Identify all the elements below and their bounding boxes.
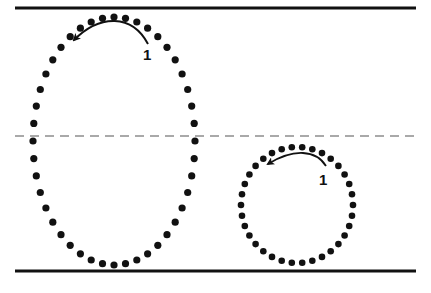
loop-dot	[77, 250, 84, 257]
loop-dot	[30, 155, 37, 162]
loop-dot	[179, 204, 186, 211]
loop-dot	[327, 248, 334, 255]
large-loop-dots	[29, 13, 198, 268]
loop-dot	[289, 260, 296, 267]
loop-dot	[350, 202, 357, 209]
loop-dot	[37, 189, 44, 196]
loop-dot	[327, 155, 334, 162]
loop-dot	[33, 172, 40, 179]
loop-dot	[163, 231, 170, 238]
loop-dot	[188, 172, 195, 179]
loop-dot	[133, 256, 140, 263]
loop-dot	[289, 144, 296, 151]
loop-dot	[144, 25, 151, 32]
loop-dot	[57, 44, 64, 51]
loop-dot	[99, 260, 106, 267]
large-loop-label: 1	[143, 47, 151, 62]
loop-dot	[67, 33, 74, 40]
loop-dot	[49, 56, 56, 63]
loop-dot	[269, 254, 276, 261]
loop-dot	[278, 146, 285, 153]
loop-dot	[144, 250, 151, 257]
loop-dot	[154, 242, 161, 249]
loop-dot	[110, 261, 117, 268]
loop-dot	[30, 120, 37, 127]
loop-dot	[179, 70, 186, 77]
loop-dot	[335, 241, 342, 248]
loop-dot	[319, 254, 326, 261]
loop-dot	[188, 103, 195, 110]
loop-dot	[172, 56, 179, 63]
loop-dot	[309, 146, 316, 153]
loop-dot	[341, 171, 348, 178]
loop-dot	[33, 103, 40, 110]
loop-dot	[346, 223, 353, 230]
loop-dot	[110, 13, 117, 20]
loop-dot	[239, 191, 246, 198]
loop-dot	[252, 241, 259, 248]
loop-dot	[238, 202, 245, 209]
loop-dot	[260, 248, 267, 255]
loop-dot	[42, 70, 49, 77]
loop-dot	[319, 150, 326, 157]
loop-dot	[242, 181, 249, 188]
loop-dot	[299, 144, 306, 151]
loop-dot	[122, 15, 129, 22]
loop-dot	[49, 219, 56, 226]
loop-dot	[37, 86, 44, 93]
loop-dot	[191, 120, 198, 127]
loop-dot	[67, 242, 74, 249]
loop-dot	[42, 204, 49, 211]
small-loop-arrow-icon	[268, 153, 326, 166]
loop-dot	[154, 33, 161, 40]
loop-dot	[260, 155, 267, 162]
loop-dot	[191, 137, 198, 144]
small-loop-dots	[238, 144, 357, 266]
loop-dot	[184, 189, 191, 196]
loop-dot	[77, 25, 84, 32]
loop-dot	[269, 150, 276, 157]
loop-dot	[341, 232, 348, 239]
loop-dot	[309, 258, 316, 265]
loop-dot	[278, 258, 285, 265]
loop-dot	[133, 18, 140, 25]
loop-dot	[172, 219, 179, 226]
loop-dot	[239, 212, 246, 219]
loop-dot	[252, 163, 259, 170]
loop-dot	[349, 191, 356, 198]
loop-dot	[299, 260, 306, 267]
loop-dot	[88, 256, 95, 263]
loop-dot	[246, 171, 253, 178]
loop-dot	[57, 231, 64, 238]
loop-dot	[335, 163, 342, 170]
loop-dot	[246, 232, 253, 239]
loop-dot	[163, 44, 170, 51]
diagram-canvas: 1 1	[0, 0, 431, 293]
loop-dot	[346, 181, 353, 188]
loop-dot	[122, 260, 129, 267]
loop-dot	[242, 223, 249, 230]
loop-dot	[29, 137, 36, 144]
diagram-svg	[0, 0, 431, 293]
loop-dot	[349, 212, 356, 219]
loop-dot	[184, 86, 191, 93]
loop-dot	[191, 155, 198, 162]
small-loop-label: 1	[319, 172, 327, 187]
